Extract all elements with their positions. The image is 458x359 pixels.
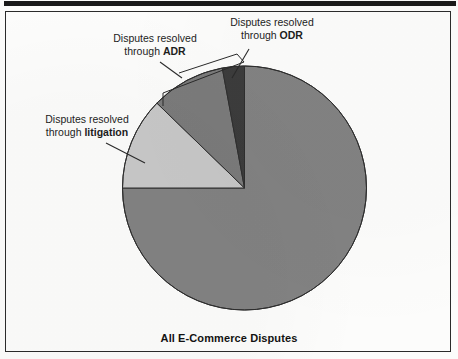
scanned-page: Disputes resolved through ODR Disputes r…: [0, 0, 458, 359]
callout-label-odr: Disputes resolved through ODR: [212, 16, 332, 42]
pie-chart-figure: [0, 0, 458, 359]
callout-label-adr-prefix: through: [124, 45, 163, 57]
callout-label-litigation-line1: Disputes resolved: [24, 113, 150, 126]
callout-label-litigation-term: litigation: [84, 126, 128, 138]
callout-label-odr-line2: through ODR: [212, 29, 332, 42]
callout-label-litigation-prefix: through: [46, 126, 85, 138]
callout-label-litigation-line2: through litigation: [24, 126, 150, 139]
callout-label-litigation: Disputes resolved through litigation: [24, 113, 150, 139]
leader-line-adr: [160, 62, 182, 78]
callout-label-adr-term: ADR: [163, 45, 186, 57]
chart-caption: All E-Commerce Disputes: [0, 332, 458, 344]
callout-label-odr-prefix: through: [241, 29, 280, 41]
callout-label-adr-line1: Disputes resolved: [94, 32, 216, 45]
callout-label-odr-term: ODR: [280, 29, 303, 41]
callout-label-adr: Disputes resolved through ADR: [94, 32, 216, 58]
callout-label-odr-line1: Disputes resolved: [212, 16, 332, 29]
callout-label-adr-line2: through ADR: [94, 45, 216, 58]
